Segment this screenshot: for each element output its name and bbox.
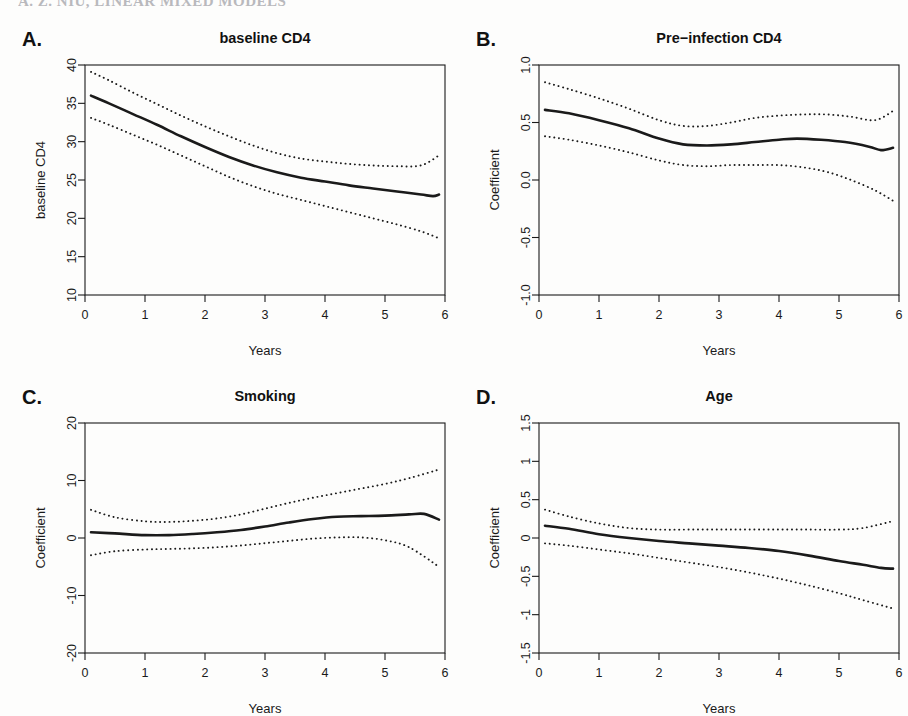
series-estimate xyxy=(545,110,893,150)
svg-text:0: 0 xyxy=(82,666,89,680)
svg-text:2: 2 xyxy=(202,308,209,322)
svg-text:4: 4 xyxy=(322,666,329,680)
svg-text:1.0: 1.0 xyxy=(519,56,533,73)
svg-text:20: 20 xyxy=(65,416,79,430)
svg-text:3: 3 xyxy=(262,666,269,680)
series-upper-confidence-band xyxy=(545,510,893,530)
svg-text:1: 1 xyxy=(596,308,603,322)
series-lower-confidence-band xyxy=(91,537,439,567)
panel-a-baseline-cd4: A. baseline CD4 baseline CD4 Years 01234… xyxy=(0,0,454,358)
svg-text:-0.5: -0.5 xyxy=(519,566,533,588)
panel-c-smoking: C. Smoking Coefficient Years 0123456-20-… xyxy=(0,358,454,716)
svg-text:-20: -20 xyxy=(65,644,79,662)
svg-text:15: 15 xyxy=(65,250,79,264)
svg-text:5: 5 xyxy=(836,308,843,322)
svg-text:40: 40 xyxy=(65,58,79,72)
series-lower-confidence-band xyxy=(91,118,439,238)
svg-text:-1.0: -1.0 xyxy=(519,284,533,306)
figure-panel-grid: A. baseline CD4 baseline CD4 Years 01234… xyxy=(0,0,908,716)
svg-text:0.5: 0.5 xyxy=(519,491,533,508)
svg-text:3: 3 xyxy=(262,308,269,322)
svg-text:10: 10 xyxy=(65,474,79,488)
svg-text:0: 0 xyxy=(536,666,543,680)
svg-text:2: 2 xyxy=(656,666,663,680)
svg-text:4: 4 xyxy=(322,308,329,322)
svg-text:0.5: 0.5 xyxy=(519,114,533,131)
svg-text:2: 2 xyxy=(202,666,209,680)
svg-text:6: 6 xyxy=(442,308,449,322)
svg-text:1.5: 1.5 xyxy=(519,414,533,431)
svg-text:4: 4 xyxy=(776,308,783,322)
plot-area-a: 012345610152025303540 xyxy=(0,0,454,358)
series-estimate xyxy=(91,514,439,536)
svg-text:0: 0 xyxy=(82,308,89,322)
svg-text:1: 1 xyxy=(142,308,149,322)
plot-area-d: 0123456-1.5-1-0.500.511.5 xyxy=(454,358,908,716)
plot-area-b: 0123456-1.0-0.50.00.51.0 xyxy=(454,0,908,358)
svg-text:10: 10 xyxy=(65,288,79,302)
svg-text:-1: -1 xyxy=(519,609,533,620)
svg-text:1: 1 xyxy=(519,458,533,465)
svg-text:1: 1 xyxy=(142,666,149,680)
svg-text:25: 25 xyxy=(65,173,79,187)
panel-b-pre-infection-cd4: B. Pre−infection CD4 Coefficient Years 0… xyxy=(454,0,908,358)
svg-text:-10: -10 xyxy=(65,586,79,604)
svg-text:5: 5 xyxy=(836,666,843,680)
series-lower-confidence-band xyxy=(545,543,893,608)
svg-text:2: 2 xyxy=(656,308,663,322)
series-upper-confidence-band xyxy=(91,470,439,522)
series-estimate xyxy=(91,96,439,196)
svg-text:0: 0 xyxy=(536,308,543,322)
svg-text:5: 5 xyxy=(382,666,389,680)
panel-d-age: D. Age Coefficient Years 0123456-1.5-1-0… xyxy=(454,358,908,716)
svg-text:-1.5: -1.5 xyxy=(519,642,533,664)
svg-text:30: 30 xyxy=(65,135,79,149)
series-estimate xyxy=(545,526,893,569)
svg-text:20: 20 xyxy=(65,211,79,225)
svg-text:6: 6 xyxy=(442,666,449,680)
svg-text:0.0: 0.0 xyxy=(519,171,533,188)
svg-text:6: 6 xyxy=(896,666,903,680)
svg-text:3: 3 xyxy=(716,308,723,322)
svg-text:1: 1 xyxy=(596,666,603,680)
svg-text:3: 3 xyxy=(716,666,723,680)
svg-text:0: 0 xyxy=(519,534,533,541)
svg-text:35: 35 xyxy=(65,96,79,110)
svg-text:-0.5: -0.5 xyxy=(519,227,533,249)
svg-text:5: 5 xyxy=(382,308,389,322)
svg-text:4: 4 xyxy=(776,666,783,680)
svg-text:6: 6 xyxy=(896,308,903,322)
plot-area-c: 0123456-20-1001020 xyxy=(0,358,454,716)
svg-text:0: 0 xyxy=(65,534,79,541)
